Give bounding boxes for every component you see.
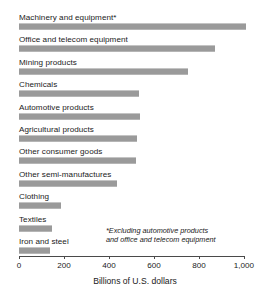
bar-row: Chemicals [19,78,244,98]
x-axis-tick-mark [64,256,65,259]
bar-category-label: Clothing [19,192,49,201]
footnote-line-2: and office and telecom equipment [106,236,258,245]
bar [19,90,139,97]
bar-row: Clothing [19,190,244,210]
bar-category-label: Automotive products [19,103,94,112]
bar [19,23,246,30]
bar [19,247,50,254]
bar-category-label: Other semi-manufactures [19,170,111,179]
bar-category-label: Iron and steel [19,237,69,246]
bar-row: Office and telecom equipment [19,33,244,53]
bar-category-label: Mining products [19,58,77,67]
x-axis-tick-label: 800 [192,261,206,271]
bar [19,113,140,120]
bar-row: Agricultural products [19,123,244,143]
bar-category-label: Machinery and equipment* [19,13,116,22]
x-axis-tick-mark [19,256,20,259]
x-axis-title: Billions of U.S. dollars [0,276,270,286]
plot-area: Machinery and equipment*Office and telec… [19,10,244,256]
x-axis-tick-label: 0 [17,261,22,271]
bar-row: Machinery and equipment* [19,11,244,31]
x-axis-tick-mark [109,256,110,259]
bar [19,225,52,232]
bar-category-label: Chemicals [19,80,57,89]
x-axis-tick-label: 400 [102,261,116,271]
bar [19,45,215,52]
x-axis-tick-label: 1,000 [234,261,254,271]
bar-category-label: Other consumer goods [19,147,102,156]
x-axis-tick-mark [199,256,200,259]
x-axis-tick-mark [244,256,245,259]
x-axis-line [19,256,245,257]
bar [19,68,188,75]
bar-category-label: Textiles [19,215,46,224]
bar [19,180,117,187]
bar-row: Automotive products [19,101,244,121]
x-axis-tick-label: 600 [147,261,161,271]
bar-chart: Machinery and equipment*Office and telec… [0,0,270,301]
x-axis-tick-label: 200 [57,261,71,271]
bar [19,157,136,164]
bar-row: Other semi-manufactures [19,168,244,188]
bar-row: Mining products [19,56,244,76]
x-axis-tick-mark [154,256,155,259]
chart-footnote: *Excluding automotive products and offic… [106,227,258,244]
bar-category-label: Office and telecom equipment [19,35,128,44]
bar-row: Other consumer goods [19,145,244,165]
bar-category-label: Agricultural products [19,125,94,134]
bar [19,135,137,142]
bar [19,202,61,209]
